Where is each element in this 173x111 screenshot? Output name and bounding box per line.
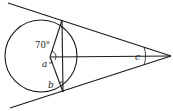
angle-label-b: b: [48, 80, 54, 90]
angle-arc-70: [52, 51, 56, 60]
angle-label-c: c: [135, 52, 140, 62]
circle: [5, 20, 77, 92]
radius-upper: [50, 20, 62, 57]
lower-tangent-line: [10, 56, 171, 108]
center-line: [50, 56, 171, 57]
upper-tangent-line: [8, 3, 171, 56]
angle-label-70: 70°: [35, 40, 50, 50]
angle-label-a: a: [42, 59, 47, 69]
tangent-circle-diagram: 70° a b c: [0, 0, 173, 111]
